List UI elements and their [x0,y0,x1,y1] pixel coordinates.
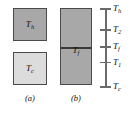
block-hot-label: Th [26,20,34,29]
block-cold-label: Tc [26,64,34,73]
scale-tick-label-4: Tc [113,82,121,91]
scale-tick-2 [100,46,111,48]
caption-panel-a: (a) [13,93,47,103]
scale-tick-3 [100,62,111,64]
scale-tick-label-2: Tf [113,42,120,51]
caption-panel-b: (b) [60,93,92,103]
block-joined-label: Tf [73,45,80,55]
scale-tick-0 [100,8,111,10]
scale-tick-label-0: Th [113,4,121,13]
scale-tick-label-3: T1 [113,57,121,66]
block-joined-label-wrap: Tf [61,39,91,57]
thermal-contact-figure: Th Tc (a) Tf (b) Th T2 Tf T1 Tc [0,0,132,113]
block-joined: Tf [60,8,92,85]
scale-tick-1 [100,29,111,31]
scale-tick-4 [100,86,111,88]
temperature-scale: Th T2 Tf T1 Tc [100,8,132,86]
scale-tick-label-1: T2 [113,25,121,34]
block-hot: Th [13,8,47,41]
block-cold: Tc [13,52,47,85]
